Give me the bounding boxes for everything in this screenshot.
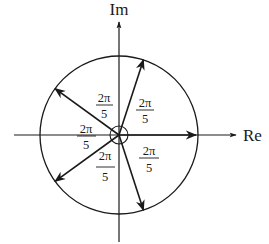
svg-text:5: 5 [146,161,152,175]
re-axis-label: Re [243,126,262,145]
roots-of-unity-diagram: Im Re 2π 5 2π 5 2π 5 2π 5 2π 5 [0,0,269,244]
svg-text:2π: 2π [80,122,93,136]
svg-text:5: 5 [102,170,108,184]
svg-text:5: 5 [83,138,89,152]
svg-text:2π: 2π [139,96,152,110]
svg-text:2π: 2π [98,91,111,105]
root-vector-4 [119,135,143,210]
angle-label-left: 2π 5 [77,122,96,152]
svg-text:5: 5 [142,112,148,126]
svg-text:2π: 2π [143,144,156,158]
angle-label-lower-right: 2π 5 [139,144,159,175]
svg-text:5: 5 [101,107,107,121]
angle-label-lower-left: 2π 5 [96,149,115,184]
im-axis-label: Im [110,0,129,19]
angle-label-upper-left: 2π 5 [96,91,113,121]
angle-label-upper-right: 2π 5 [136,96,154,126]
svg-text:2π: 2π [99,149,112,163]
